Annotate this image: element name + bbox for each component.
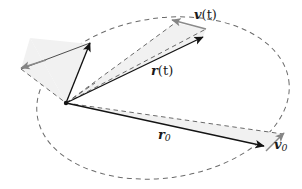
label-v-zero: v0	[274, 138, 288, 153]
label-v-of-t-symbol: v	[194, 7, 202, 22]
label-v-zero-symbol: v	[274, 137, 282, 152]
rt-shaded-polygon	[66, 23, 206, 103]
label-v-of-t-arg: (t)	[202, 7, 217, 22]
label-r-zero-symbol: r	[158, 127, 165, 142]
label-r-of-t-arg: (t)	[158, 63, 173, 78]
label-r-zero: r0	[158, 128, 171, 143]
label-v-of-t: v(t)	[194, 8, 217, 21]
label-r-zero-subscript: 0	[165, 132, 171, 143]
origin-point	[64, 101, 68, 105]
figure-canvas: v(t) r(t) r0 v0	[0, 0, 302, 189]
vector-diagram	[0, 0, 302, 189]
label-r-of-t-symbol: r	[151, 63, 158, 78]
label-v-zero-subscript: 0	[282, 142, 288, 153]
label-r-of-t: r(t)	[151, 64, 173, 77]
rt-shaded-region	[66, 23, 206, 103]
